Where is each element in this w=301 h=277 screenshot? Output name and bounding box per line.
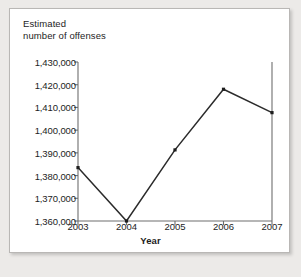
data-point-marker — [76, 166, 79, 169]
x-tick-label: 2007 — [261, 221, 282, 232]
x-tick-label: 2005 — [164, 221, 185, 232]
y-tick-label: 1,380,000 — [35, 170, 76, 181]
chart-figure-frame: Estimated number of offenses 1,360,0001,… — [9, 8, 290, 253]
x-axis-title: Year — [10, 235, 291, 247]
y-axis-tick-labels: 1,360,0001,370,0001,380,0001,390,0001,40… — [18, 9, 76, 254]
y-tick-label: 1,400,000 — [35, 125, 76, 136]
data-point-marker — [270, 111, 273, 114]
data-line — [78, 89, 272, 221]
x-tick-label: 2006 — [213, 221, 234, 232]
x-tick-label: 2004 — [116, 221, 137, 232]
y-tick-label: 1,390,000 — [35, 147, 76, 158]
line-chart: Estimated number of offenses 1,360,0001,… — [10, 9, 291, 254]
y-tick-label: 1,370,000 — [35, 193, 76, 204]
y-tick-label: 1,410,000 — [35, 102, 76, 113]
x-tick-label: 2003 — [67, 221, 88, 232]
data-point-marker — [173, 148, 176, 151]
y-tick-label: 1,430,000 — [35, 57, 76, 68]
data-point-marker — [222, 88, 225, 91]
y-tick-label: 1,420,000 — [35, 79, 76, 90]
